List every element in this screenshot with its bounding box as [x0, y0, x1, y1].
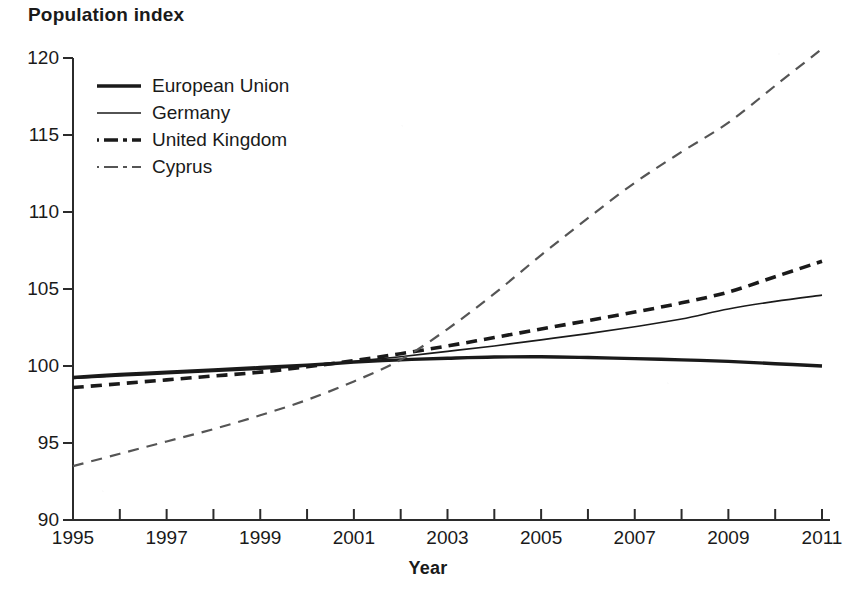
legend-line-icon — [96, 133, 142, 147]
x-axis-tick-label: 2009 — [688, 527, 768, 549]
legend-line-icon — [96, 79, 142, 93]
series-line-european-union — [73, 357, 822, 378]
x-axis-tick-label: 2011 — [782, 527, 856, 549]
legend-item[interactable]: Cyprus — [96, 153, 289, 180]
legend-line-icon — [96, 106, 142, 120]
series-line-germany — [73, 295, 822, 378]
population-index-chart: Population index 1201151101051009590 199… — [0, 0, 856, 599]
legend-line-icon — [96, 160, 142, 174]
y-axis-tick-label: 95 — [3, 432, 59, 454]
x-axis-title: Year — [0, 558, 856, 579]
y-axis-tick-label: 115 — [3, 124, 59, 146]
x-axis-tick-label: 2007 — [595, 527, 675, 549]
x-axis-tick-label: 2001 — [314, 527, 394, 549]
y-axis-tick-label: 110 — [3, 201, 59, 223]
chart-legend: European UnionGermanyUnited KingdomCypru… — [96, 72, 289, 180]
legend-label: Germany — [152, 103, 230, 122]
legend-item[interactable]: United Kingdom — [96, 126, 289, 153]
series-line-united-kingdom — [73, 261, 822, 387]
legend-label: United Kingdom — [152, 130, 287, 149]
legend-item[interactable]: European Union — [96, 72, 289, 99]
x-axis-tick-label: 1999 — [220, 527, 300, 549]
x-axis-tick-label: 1995 — [33, 527, 113, 549]
x-axis-tick-label: 2003 — [408, 527, 488, 549]
legend-item[interactable]: Germany — [96, 99, 289, 126]
y-axis-tick-label: 100 — [3, 355, 59, 377]
legend-label: Cyprus — [152, 157, 212, 176]
y-axis-tick-label: 120 — [3, 47, 59, 69]
x-axis-tick-label: 1997 — [127, 527, 207, 549]
x-axis-tick-label: 2005 — [501, 527, 581, 549]
y-axis-tick-label: 105 — [3, 278, 59, 300]
legend-label: European Union — [152, 76, 289, 95]
